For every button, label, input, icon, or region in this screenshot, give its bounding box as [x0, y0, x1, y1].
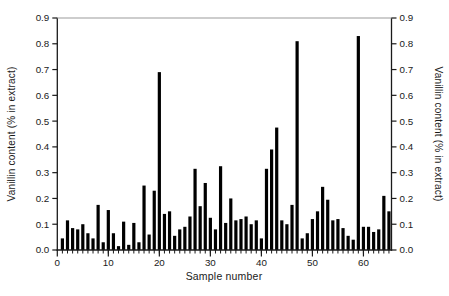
bar-sample-16: [137, 242, 140, 250]
bar-chart-canvas: 0.00.00.10.10.20.20.30.30.40.40.50.50.60…: [0, 0, 449, 296]
y-tick-label-right: 0.3: [400, 167, 414, 178]
bar-sample-25: [183, 227, 186, 250]
bar-sample-13: [122, 222, 125, 250]
bar-sample-2: [66, 220, 69, 250]
bar-sample-35: [234, 220, 237, 250]
bar-sample-28: [199, 206, 202, 250]
bar-sample-45: [285, 224, 288, 250]
bar-sample-43: [275, 128, 278, 250]
y-tick-label-right: 0.2: [400, 193, 414, 204]
y-tick-label-right: 0.7: [400, 64, 414, 75]
bar-sample-6: [86, 233, 89, 250]
bar-sample-54: [331, 220, 334, 250]
y-tick-label-left: 0.1: [36, 219, 50, 230]
bar-sample-33: [224, 223, 227, 250]
bar-sample-31: [214, 229, 217, 250]
x-tick-label: 10: [103, 257, 114, 268]
x-tick-label: 0: [55, 257, 61, 268]
bar-sample-32: [219, 166, 222, 250]
bar-sample-51: [316, 211, 319, 250]
bar-sample-26: [188, 216, 191, 250]
bar-sample-60: [362, 227, 365, 250]
bar-sample-36: [239, 219, 242, 250]
y-tick-label-left: 0.2: [36, 193, 50, 204]
y-tick-label-left: 0.6: [36, 90, 50, 101]
bar-sample-55: [336, 219, 339, 250]
bar-sample-65: [387, 211, 390, 250]
y-tick-label-left: 0.0: [36, 244, 50, 255]
bar-sample-27: [193, 169, 196, 250]
bar-sample-8: [97, 205, 100, 250]
bar-sample-7: [91, 238, 94, 250]
y-axis-label-right: Vanillin content (% in extract): [430, 24, 444, 244]
bar-sample-15: [132, 223, 135, 250]
y-tick-label-right: 0.5: [400, 116, 414, 127]
y-tick-label-left: 0.9: [36, 12, 50, 23]
y-tick-label-right: 0.0: [400, 244, 414, 255]
bar-sample-21: [163, 214, 166, 250]
bar-sample-58: [352, 240, 355, 250]
y-tick-label-right: 0.4: [400, 141, 414, 152]
y-tick-label-right: 0.1: [400, 219, 414, 230]
bar-sample-18: [148, 235, 151, 250]
bar-sample-49: [306, 233, 309, 250]
x-tick-label: 40: [256, 257, 267, 268]
bar-sample-29: [204, 183, 207, 250]
bar-sample-11: [112, 233, 115, 250]
y-tick-label-right: 0.8: [400, 38, 414, 49]
bar-sample-14: [127, 245, 130, 250]
bar-sample-4: [76, 229, 79, 250]
y-axis-label-left: Vanillin content (% in extract): [6, 24, 20, 244]
bar-sample-57: [347, 236, 350, 250]
x-tick-label: 20: [154, 257, 165, 268]
y-tick-label-left: 0.4: [36, 141, 50, 152]
bar-sample-52: [321, 187, 324, 250]
bar-sample-41: [265, 169, 268, 250]
bar-sample-38: [250, 224, 253, 250]
bar-sample-61: [367, 227, 370, 250]
x-tick-label: 50: [307, 257, 318, 268]
x-tick-label: 60: [358, 257, 369, 268]
bar-sample-22: [168, 211, 171, 250]
bar-sample-63: [377, 229, 380, 250]
x-tick-label: 30: [205, 257, 216, 268]
bar-sample-1: [61, 238, 64, 250]
bar-sample-5: [81, 224, 84, 250]
bar-sample-46: [290, 205, 293, 250]
bar-sample-37: [244, 216, 247, 250]
y-tick-label-right: 0.9: [400, 12, 414, 23]
bar-sample-3: [71, 228, 74, 250]
y-tick-label-left: 0.5: [36, 116, 50, 127]
x-axis-label: Sample number: [114, 270, 334, 284]
bar-sample-9: [102, 242, 105, 250]
vanillin-bar-chart-figure: 0.00.00.10.10.20.20.30.30.40.40.50.50.60…: [0, 0, 449, 296]
bar-sample-42: [270, 149, 273, 250]
bar-sample-44: [280, 220, 283, 250]
bar-sample-30: [209, 218, 212, 250]
bar-sample-53: [326, 200, 329, 250]
bar-sample-47: [296, 41, 299, 250]
y-tick-label-left: 0.7: [36, 64, 50, 75]
bar-sample-20: [158, 72, 161, 250]
y-tick-label-left: 0.3: [36, 167, 50, 178]
bar-sample-24: [178, 229, 181, 250]
bar-sample-19: [153, 191, 156, 250]
bar-sample-48: [301, 238, 304, 250]
bar-sample-59: [357, 36, 360, 250]
bar-sample-17: [142, 186, 145, 250]
y-tick-label-left: 0.8: [36, 38, 50, 49]
bar-sample-34: [229, 198, 232, 250]
bar-sample-56: [341, 228, 344, 250]
bar-sample-64: [382, 196, 385, 250]
bar-sample-50: [311, 219, 314, 250]
bar-sample-10: [107, 210, 110, 250]
y-tick-label-right: 0.6: [400, 90, 414, 101]
bar-sample-40: [260, 238, 263, 250]
bar-sample-39: [255, 220, 258, 250]
bar-sample-23: [173, 236, 176, 250]
bar-sample-62: [372, 232, 375, 250]
